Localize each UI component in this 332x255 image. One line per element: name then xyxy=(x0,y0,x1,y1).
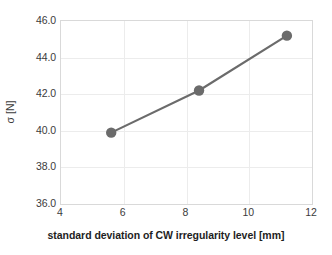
data-point-marker xyxy=(194,85,204,95)
y-tick-label: 42.0 xyxy=(0,87,56,99)
plot-area xyxy=(60,20,313,205)
data-point-marker xyxy=(282,30,292,40)
series-line xyxy=(111,36,287,133)
y-tick-label: 44.0 xyxy=(0,51,56,63)
x-tick-label: 10 xyxy=(242,206,254,218)
y-tick-label: 38.0 xyxy=(0,160,56,172)
x-tick-label: 12 xyxy=(305,206,317,218)
y-tick-label: 46.0 xyxy=(0,14,56,26)
series-plot xyxy=(61,21,312,204)
y-axis-title: σ [N] xyxy=(4,101,16,124)
x-tick-label: 6 xyxy=(120,206,126,218)
x-axis-tick-labels: 4681012 xyxy=(0,206,332,222)
x-tick-label: 8 xyxy=(183,206,189,218)
data-point-marker xyxy=(106,127,116,137)
y-tick-label: 40.0 xyxy=(0,124,56,136)
x-tick-label: 4 xyxy=(57,206,63,218)
x-axis-title: standard deviation of CW irregularity le… xyxy=(0,229,332,241)
chart-figure: 36.038.040.042.044.046.0 σ [N] 4681012 s… xyxy=(0,0,332,255)
